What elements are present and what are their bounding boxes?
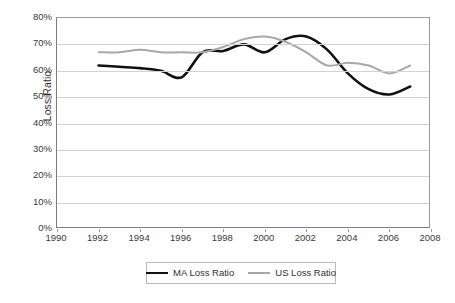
y-tick-label: 80% bbox=[18, 12, 52, 22]
x-tick-label: 1998 bbox=[200, 233, 244, 243]
y-tick-label: 10% bbox=[18, 197, 52, 207]
gridline bbox=[57, 124, 429, 125]
x-tick-label: 2008 bbox=[408, 233, 452, 243]
x-tick-label: 1992 bbox=[76, 233, 120, 243]
chart-legend: MA Loss Ratio US Loss Ratio bbox=[146, 262, 336, 284]
x-tick-label: 1990 bbox=[34, 233, 78, 243]
legend-entry-us: US Loss Ratio bbox=[248, 268, 336, 278]
legend-label-us: US Loss Ratio bbox=[275, 268, 336, 278]
x-tick-label: 2000 bbox=[242, 233, 286, 243]
legend-swatch-us-line-icon bbox=[248, 272, 270, 274]
legend-swatch-ma-line-icon bbox=[146, 272, 168, 274]
y-tick-label: 20% bbox=[18, 170, 52, 180]
y-tick-label: 60% bbox=[18, 65, 52, 75]
y-tick-label: 40% bbox=[18, 118, 52, 128]
gridline bbox=[57, 44, 429, 45]
legend-entry-ma: MA Loss Ratio bbox=[146, 268, 234, 278]
gridline bbox=[57, 97, 429, 98]
gridline bbox=[57, 203, 429, 204]
gridline bbox=[57, 71, 429, 72]
gridline bbox=[57, 150, 429, 151]
legend-label-ma: MA Loss Ratio bbox=[173, 268, 234, 278]
y-tick-label: 70% bbox=[18, 38, 52, 48]
gridline bbox=[57, 176, 429, 177]
loss-ratio-line-chart: Loss Ratio 80%70%60%50%40%30%20%10%0% 19… bbox=[0, 0, 455, 303]
y-tick-label: 30% bbox=[18, 144, 52, 154]
plot-area bbox=[56, 17, 430, 228]
x-tick-label: 2006 bbox=[366, 233, 410, 243]
x-axis-tick-labels: 1990199219941996199820002002200420062008 bbox=[0, 233, 455, 249]
y-tick-label: 50% bbox=[18, 91, 52, 101]
x-tick-label: 1996 bbox=[159, 233, 203, 243]
x-tick-label: 2004 bbox=[325, 233, 369, 243]
x-tick-label: 2002 bbox=[283, 233, 327, 243]
y-axis-tick-labels: 80%70%60%50%40%30%20%10%0% bbox=[16, 0, 52, 303]
x-tick-label: 1994 bbox=[117, 233, 161, 243]
